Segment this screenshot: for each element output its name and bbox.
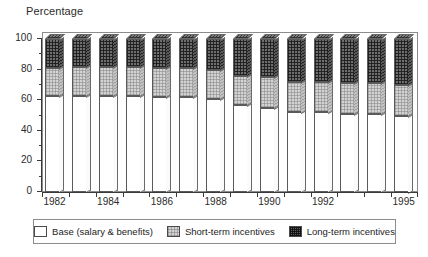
legend-swatch-short-term-icon (167, 226, 180, 237)
bar-1990 (260, 39, 275, 192)
bar-segment-side-long-1992 (328, 37, 333, 82)
bar-segment-side-short-1986 (166, 66, 171, 98)
bar-segment-base-1989 (233, 105, 248, 192)
bar-segment-side-base-1985 (140, 94, 145, 193)
bar-segment-base-1991 (287, 112, 302, 192)
x-axis-label-1986: 1986 (151, 197, 173, 207)
bar-segment-long-1983 (72, 39, 87, 67)
bar-1995 (394, 39, 409, 192)
bar-segment-long-1990 (260, 39, 275, 77)
y-tick-label-60: 60 (21, 94, 32, 104)
bar-segment-side-long-1987 (193, 37, 198, 69)
chart-legend: Base (salary & benefits) Short-term ince… (33, 219, 396, 244)
bar-segment-side-long-1995 (408, 37, 413, 86)
bar-1987 (179, 39, 194, 192)
bar-segment-side-base-1995 (408, 114, 413, 193)
bar-segment-long-1991 (287, 39, 302, 82)
y-tick-label-20: 20 (21, 155, 32, 165)
y-tick-label-80: 80 (21, 64, 32, 74)
bar-segment-side-long-1989 (247, 37, 252, 76)
bar-segment-base-1993 (340, 114, 355, 192)
bar-segment-side-base-1986 (166, 95, 171, 193)
bar-segment-short-1984 (99, 67, 114, 96)
bar-1991 (287, 39, 302, 192)
bar-segment-base-1992 (314, 112, 329, 192)
bar-segment-side-short-1991 (301, 80, 306, 113)
bar-1985 (126, 39, 141, 192)
bar-segment-short-1985 (126, 67, 141, 96)
bar-segment-base-1986 (152, 97, 167, 192)
bar-segment-short-1991 (287, 82, 302, 113)
bar-segment-side-base-1983 (86, 94, 91, 193)
y-tick-label-40: 40 (21, 125, 32, 135)
chart-title: Percentage (26, 5, 83, 17)
bar-segment-short-1988 (206, 70, 221, 99)
bar-1989 (233, 39, 248, 192)
bar-segment-side-base-1989 (247, 103, 252, 193)
bar-segment-base-1985 (126, 96, 141, 192)
bar-segment-short-1986 (152, 68, 167, 97)
bar-segment-base-1995 (394, 116, 409, 193)
legend-label-base: Base (salary & benefits) (52, 227, 153, 237)
bar-segment-side-long-1988 (220, 37, 225, 70)
bar-segment-side-base-1992 (328, 111, 333, 193)
bar-1982 (45, 39, 60, 192)
bar-segment-side-base-1993 (354, 112, 359, 193)
bar-segment-side-long-1983 (86, 37, 91, 67)
bar-segment-short-1993 (340, 83, 355, 114)
bar-segment-side-base-1984 (113, 94, 118, 193)
legend-swatch-long-term-icon (289, 226, 302, 237)
legend-item-long-term: Long-term incentives (289, 226, 395, 237)
bar-segment-side-long-1990 (274, 37, 279, 78)
bar-segment-side-short-1990 (274, 76, 279, 109)
y-tick-label-100: 100 (15, 33, 32, 43)
bar-segment-side-long-1984 (113, 37, 118, 67)
legend-item-short-term: Short-term incentives (167, 226, 275, 237)
bar-segment-side-base-1991 (301, 111, 306, 193)
y-tick-label-0: 0 (26, 186, 32, 196)
bar-segment-long-1987 (179, 39, 194, 68)
bar-segment-base-1987 (179, 97, 194, 192)
bar-segment-short-1995 (394, 85, 409, 116)
bar-segment-long-1984 (99, 39, 114, 67)
bar-segment-short-1989 (233, 76, 248, 105)
bar-segment-long-1985 (126, 39, 141, 67)
x-axis-label-1995: 1995 (393, 197, 415, 207)
bar-1983 (72, 39, 87, 192)
bar-segment-side-short-1983 (86, 65, 91, 97)
x-axis-label-1992: 1992 (312, 197, 334, 207)
bar-segment-side-base-1990 (274, 106, 279, 193)
bar-segment-base-1994 (367, 114, 382, 192)
bar-1992 (314, 39, 329, 192)
bar-segment-side-long-1982 (59, 37, 64, 69)
bar-segment-side-short-1984 (113, 65, 118, 97)
bar-segment-base-1983 (72, 96, 87, 192)
bar-segment-long-1994 (367, 39, 382, 83)
bar-segment-side-base-1994 (381, 112, 386, 193)
x-axis-label-1984: 1984 (97, 197, 119, 207)
legend-swatch-base-icon (34, 226, 47, 237)
bar-1993 (340, 39, 355, 192)
bar-segment-long-1988 (206, 39, 221, 70)
x-axis-label-1982: 1982 (43, 197, 65, 207)
x-axis-label-1988: 1988 (205, 197, 227, 207)
bar-segment-short-1987 (179, 68, 194, 97)
bar-segment-long-1992 (314, 39, 329, 82)
bar-segment-side-short-1993 (354, 82, 359, 115)
bar-1994 (367, 39, 382, 192)
bar-segment-short-1983 (72, 67, 87, 96)
bar-segment-side-long-1985 (140, 37, 145, 67)
bar-segment-long-1986 (152, 39, 167, 68)
legend-label-long-term: Long-term incentives (307, 227, 395, 237)
bar-segment-base-1990 (260, 108, 275, 192)
bar-segment-base-1984 (99, 96, 114, 192)
bar-segment-short-1982 (45, 68, 60, 96)
bar-segment-side-long-1994 (381, 37, 386, 84)
bar-segment-side-short-1982 (59, 66, 64, 96)
bar-segment-side-long-1991 (301, 37, 306, 82)
bar-segment-base-1982 (45, 96, 60, 192)
bar-segment-side-short-1985 (140, 65, 145, 97)
bar-segment-side-short-1992 (328, 80, 333, 113)
bar-segment-side-base-1987 (193, 95, 198, 193)
bar-1984 (99, 39, 114, 192)
